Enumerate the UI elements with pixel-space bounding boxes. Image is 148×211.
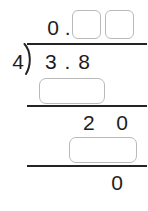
subtraction-box-2[interactable] <box>69 137 137 163</box>
long-division-widget: 0 . 4 3 . 8 2 0 0 <box>0 0 148 211</box>
subtraction-rule-1 <box>27 105 147 107</box>
final-remainder: 0 <box>106 172 128 193</box>
divisor: 4 <box>10 51 26 72</box>
bring-down-row: 2 0 <box>78 112 134 133</box>
subtraction-box-1[interactable] <box>39 78 105 104</box>
quotient-prefix: 0 . <box>44 17 74 38</box>
division-vinculum <box>27 43 147 45</box>
dividend: 3 . 8 <box>38 51 98 72</box>
quotient-box-tenths[interactable] <box>72 10 101 39</box>
quotient-box-hundredths[interactable] <box>105 10 134 39</box>
subtraction-rule-2 <box>27 165 147 167</box>
